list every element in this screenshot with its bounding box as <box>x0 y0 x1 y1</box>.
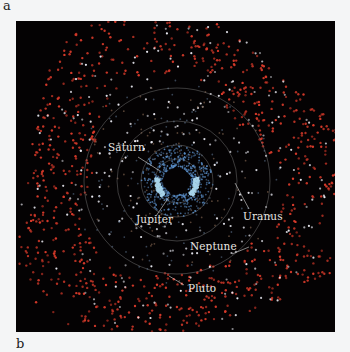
label-neptune: Neptune <box>190 240 237 252</box>
starfield-plot <box>16 21 335 332</box>
solar-system-figure: Saturn Jupiter Uranus Neptune Pluto <box>16 21 335 332</box>
label-saturn: Saturn <box>108 141 145 153</box>
label-uranus: Uranus <box>243 210 283 222</box>
panel-label-b: b <box>16 336 24 351</box>
panel-label-a: a <box>3 0 11 13</box>
label-pluto: Pluto <box>188 282 216 294</box>
label-jupiter: Jupiter <box>136 213 173 225</box>
